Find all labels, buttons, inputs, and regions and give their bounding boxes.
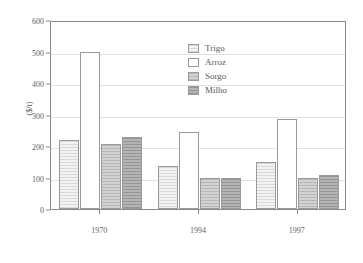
legend: TrigoArrozSorgoMilho: [188, 41, 254, 97]
x-axis-tick-mark: [99, 210, 100, 214]
y-axis-tick-label: 400: [10, 80, 44, 89]
y-axis-tick-label: 500: [10, 48, 44, 57]
bar: [158, 166, 178, 209]
legend-item-label: Arroz: [205, 57, 226, 67]
bar: [179, 132, 199, 209]
y-axis-tick-label: 200: [10, 143, 44, 152]
bar: [256, 162, 276, 209]
y-axis-tick-label: 0: [10, 206, 44, 215]
x-axis-tick-mark: [297, 210, 298, 214]
legend-swatch-icon: [188, 44, 199, 53]
bar: [277, 119, 297, 209]
bar: [59, 140, 79, 209]
legend-item: Arroz: [188, 55, 254, 69]
y-axis-tick-label: 300: [10, 111, 44, 120]
legend-item: Trigo: [188, 41, 254, 55]
legend-item: Milho: [188, 83, 254, 97]
bar: [200, 178, 220, 209]
bar-chart: ($/t) 0100200300400500600 197019941997 T…: [0, 0, 363, 263]
legend-item-label: Sorgo: [205, 71, 226, 81]
legend-swatch-icon: [188, 86, 199, 95]
bar: [298, 178, 318, 210]
x-axis-tick-label: 1994: [168, 226, 228, 235]
bar: [319, 175, 339, 209]
bar: [101, 144, 121, 209]
bar: [221, 178, 241, 210]
x-axis-tick-mark: [198, 210, 199, 214]
legend-item-label: Milho: [205, 85, 227, 95]
y-axis-tick-label: 100: [10, 174, 44, 183]
x-axis-tick-label: 1997: [267, 226, 327, 235]
bar: [80, 52, 100, 210]
bar: [122, 137, 142, 209]
legend-swatch-icon: [188, 58, 199, 67]
x-axis-tick-label: 1970: [69, 226, 129, 235]
legend-item-label: Trigo: [205, 43, 225, 53]
legend-item: Sorgo: [188, 69, 254, 83]
legend-swatch-icon: [188, 72, 199, 81]
y-axis-label: ($/t): [25, 89, 34, 129]
y-axis-tick-label: 600: [10, 17, 44, 26]
